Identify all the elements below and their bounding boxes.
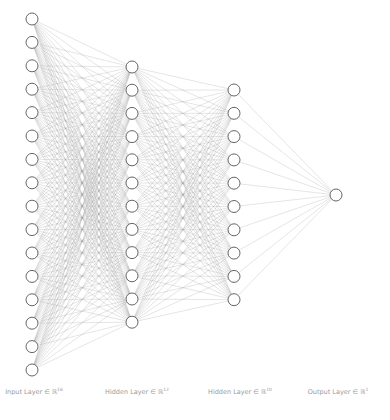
neuron-node-hidden-1 bbox=[126, 247, 138, 259]
neuron-node-hidden-1 bbox=[126, 270, 138, 282]
connection-edge bbox=[32, 67, 132, 253]
connection-edge bbox=[32, 322, 132, 370]
connection-edge bbox=[132, 207, 234, 323]
neuron-node-input bbox=[26, 83, 38, 95]
neuron-node-hidden-2 bbox=[228, 107, 240, 119]
neuron-node-input bbox=[26, 270, 38, 282]
neuron-node-input bbox=[26, 341, 38, 353]
connection-edge bbox=[234, 195, 336, 300]
layer-label-hidden-1: Hidden Layer ∈ ℝ12 bbox=[105, 387, 169, 396]
neuron-node-input bbox=[26, 177, 38, 189]
connection-edge bbox=[234, 160, 336, 195]
neuron-node-hidden-1 bbox=[126, 177, 138, 189]
neuron-node-hidden-2 bbox=[228, 201, 240, 213]
neuron-node-input bbox=[26, 294, 38, 306]
neuron-node-input bbox=[26, 130, 38, 142]
neuron-node-input bbox=[26, 224, 38, 236]
neuron-node-hidden-2 bbox=[228, 294, 240, 306]
neuron-node-output bbox=[330, 189, 342, 201]
neuron-node-hidden-1 bbox=[126, 293, 138, 305]
layer-label-input: Input Layer ∈ ℝ16 bbox=[5, 387, 63, 396]
neuron-node-hidden-2 bbox=[228, 247, 240, 259]
connection-edge bbox=[234, 90, 336, 195]
neuron-node-hidden-2 bbox=[228, 270, 240, 282]
connection-edge bbox=[234, 195, 336, 276]
neuron-node-input bbox=[26, 317, 38, 329]
connection-edges bbox=[32, 19, 336, 370]
neuron-node-hidden-1 bbox=[126, 154, 138, 166]
connection-edge bbox=[32, 90, 132, 370]
neuron-node-input bbox=[26, 60, 38, 72]
neuron-node-hidden-1 bbox=[126, 200, 138, 212]
neuron-node-hidden-1 bbox=[126, 84, 138, 96]
connection-edge bbox=[234, 195, 336, 230]
connection-edge bbox=[132, 67, 234, 90]
connection-edge bbox=[234, 183, 336, 195]
connection-edge bbox=[132, 113, 234, 322]
connection-edge bbox=[132, 300, 234, 323]
neuron-node-input bbox=[26, 200, 38, 212]
neuron-node-hidden-1 bbox=[126, 131, 138, 143]
neuron-node-input bbox=[26, 13, 38, 25]
neuron-node-hidden-2 bbox=[228, 84, 240, 96]
connection-edge bbox=[32, 299, 132, 370]
connection-edge bbox=[32, 67, 132, 323]
neuron-node-input bbox=[26, 36, 38, 48]
connection-edge bbox=[234, 137, 336, 195]
neuron-node-hidden-1 bbox=[126, 61, 138, 73]
neuron-node-input bbox=[26, 107, 38, 119]
connection-edge bbox=[132, 276, 234, 322]
neuron-node-input bbox=[26, 153, 38, 165]
neuron-node-hidden-2 bbox=[228, 177, 240, 189]
neuron-node-hidden-1 bbox=[126, 316, 138, 328]
connection-edge bbox=[234, 195, 336, 253]
connection-edge bbox=[32, 113, 132, 370]
neuron-node-hidden-1 bbox=[126, 107, 138, 119]
neuron-node-hidden-2 bbox=[228, 224, 240, 236]
neuron-node-input bbox=[26, 247, 38, 259]
neuron-node-hidden-2 bbox=[228, 154, 240, 166]
connection-edge bbox=[234, 195, 336, 207]
neuron-node-hidden-1 bbox=[126, 223, 138, 235]
connection-edge bbox=[234, 113, 336, 195]
layer-label-hidden-2: Hidden Layer ∈ ℝ10 bbox=[208, 387, 272, 396]
neuron-node-hidden-2 bbox=[228, 131, 240, 143]
network-diagram bbox=[0, 0, 390, 420]
layer-label-output: Output Layer ∈ ℝ1 bbox=[308, 387, 369, 396]
neuron-node-input bbox=[26, 364, 38, 376]
connection-edge bbox=[132, 160, 234, 322]
